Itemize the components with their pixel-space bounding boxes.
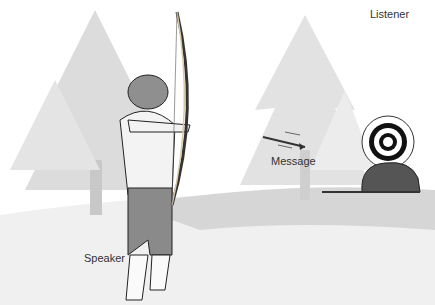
- illustration: [0, 0, 435, 305]
- message-label: Message: [271, 155, 316, 167]
- target-listener: [362, 116, 414, 168]
- listener-label: Listener: [370, 8, 409, 20]
- bow: [172, 12, 187, 205]
- tree-right: [240, 15, 375, 200]
- speaker-label: Speaker: [84, 252, 125, 264]
- communication-diagram: Listener Message Speaker: [0, 0, 435, 305]
